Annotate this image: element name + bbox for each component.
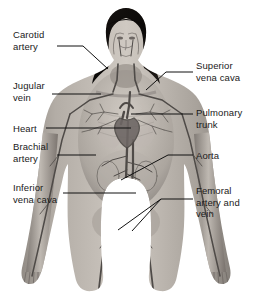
label-heart: Heart bbox=[13, 123, 37, 135]
label-inferior-vena-cava: Inferior vena cava bbox=[13, 182, 57, 205]
label-aorta: Aorta bbox=[196, 150, 219, 162]
anatomy-figure: Carotid artery Jugular vein Heart Brachi… bbox=[0, 0, 253, 294]
label-superior-vena-cava: Superior vena cava bbox=[196, 60, 240, 83]
label-femoral-artery-and-vein: Femoral artery and vein bbox=[196, 185, 240, 220]
label-pulmonary-trunk: Pulmonary trunk bbox=[196, 107, 242, 130]
label-jugular-vein: Jugular vein bbox=[13, 80, 45, 103]
label-carotid-artery: Carotid artery bbox=[13, 29, 44, 52]
label-brachial-artery: Brachial artery bbox=[13, 141, 48, 164]
